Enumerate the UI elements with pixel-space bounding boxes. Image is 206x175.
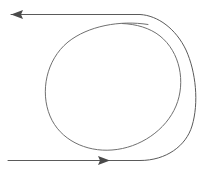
loop-diagram-svg: [0, 0, 206, 175]
diagram-canvas: [0, 0, 206, 175]
